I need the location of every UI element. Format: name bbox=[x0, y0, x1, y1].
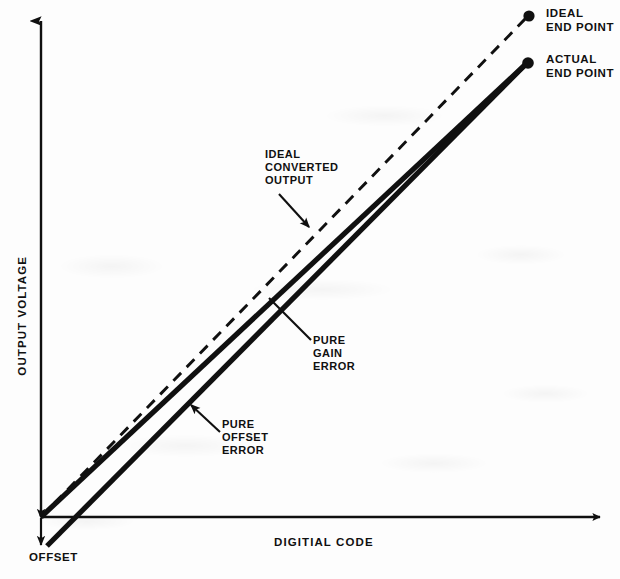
ideal-end-point-label: IDEAL END POINT bbox=[546, 7, 614, 34]
ideal-converted-output-leader bbox=[279, 194, 309, 227]
pure-offset-error-label: PURE OFFSET ERROR bbox=[222, 418, 268, 457]
ideal-converted-output-label: IDEAL CONVERTED OUTPUT bbox=[265, 148, 339, 187]
actual-end-point-dot bbox=[522, 57, 534, 69]
y-axis-label: OUTPUT VOLTAGE bbox=[16, 246, 30, 386]
pure-gain-error-label: PURE GAIN ERROR bbox=[313, 334, 355, 373]
pure-offset-error-leader bbox=[191, 405, 220, 432]
pure-offset-error-line bbox=[47, 63, 527, 546]
diagram-canvas: IDEAL END POINT ACTUAL END POINT IDEAL C… bbox=[0, 0, 620, 579]
offset-label: OFFSET bbox=[29, 551, 78, 565]
ideal-converted-output-line bbox=[41, 17, 527, 517]
transfer-function-figure bbox=[0, 0, 620, 579]
ideal-end-point-dot bbox=[523, 10, 534, 21]
pure-gain-error-line bbox=[41, 63, 527, 517]
actual-end-point-label: ACTUAL END POINT bbox=[546, 53, 614, 80]
x-axis-label: DIGITIAL CODE bbox=[274, 536, 374, 550]
